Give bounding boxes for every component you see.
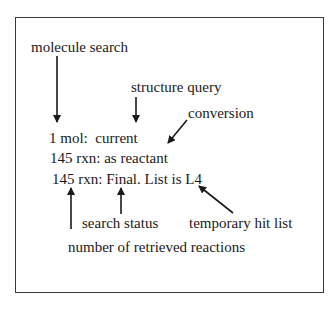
arrow-diagonal-icon [199,186,233,213]
arrow-diagonal-icon [168,120,187,143]
arrows-layer [0,0,336,310]
